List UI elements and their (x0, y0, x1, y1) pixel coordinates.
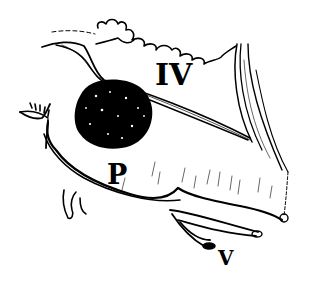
right-band-4 (256, 70, 288, 172)
dark-mass (75, 80, 153, 149)
branch-left-2 (80, 198, 86, 214)
label-v: V (218, 248, 234, 268)
pancreas-right-edge (284, 172, 288, 216)
label-p: P (107, 161, 127, 188)
label-iv: IV (155, 60, 192, 90)
branch-left-1 (63, 190, 76, 218)
shading-hatches (122, 162, 272, 198)
vessel-end-v (203, 243, 215, 249)
bumpy-tissue-lower (96, 38, 134, 44)
right-band-3 (248, 44, 282, 170)
faint-dashed-line (52, 31, 95, 34)
anatomical-drawing (0, 0, 309, 282)
left-tuft (20, 103, 49, 118)
